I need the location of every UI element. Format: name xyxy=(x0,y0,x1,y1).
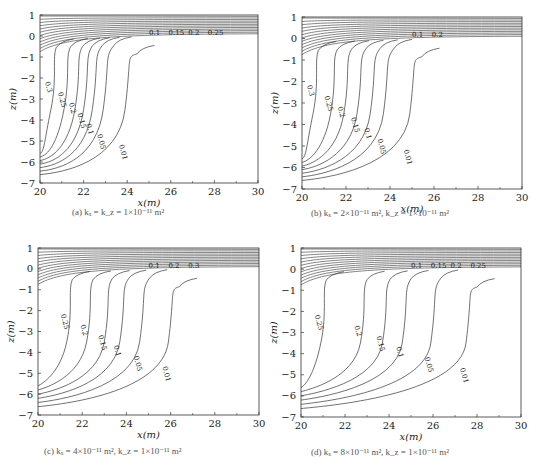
x-tick-label: 24 xyxy=(121,186,134,197)
panel-d: 0.250.20.150.10.050.010.10.150.20.252022… xyxy=(265,230,537,465)
contour-plot-d: 0.250.20.150.10.050.010.10.150.20.252022… xyxy=(265,230,537,445)
y-tick-label: −4 xyxy=(20,115,35,126)
contour-plot-c: 0.250.20.150.10.050.010.10.20.3202224262… xyxy=(0,230,268,445)
contour-label: 0.2 xyxy=(79,324,90,337)
y-tick-label: 1 xyxy=(27,243,33,254)
contour-label: 0.3 xyxy=(43,81,54,94)
surface-contour-label: 0.25 xyxy=(208,29,224,37)
contour-label: 0.1 xyxy=(112,345,123,358)
contour-label: 0.1 xyxy=(362,127,373,140)
surface-contour-label: 0.1 xyxy=(412,31,423,39)
x-tick-label: 26 xyxy=(428,192,441,203)
y-tick-label: 0 xyxy=(29,31,35,42)
y-tick-label: −5 xyxy=(18,368,33,379)
y-tick-label: −7 xyxy=(20,178,35,189)
contour-label: 0.01 xyxy=(402,149,414,166)
surface-contour-label: 0.3 xyxy=(188,262,199,270)
panel-c: 0.250.20.150.10.050.010.10.20.3202224262… xyxy=(0,230,268,465)
contour-label: 0.15 xyxy=(96,334,108,351)
x-tick-label: 26 xyxy=(427,420,440,431)
y-tick-label: 1 xyxy=(291,12,297,23)
y-axis-label: z(m) xyxy=(268,321,279,345)
y-tick-label: −1 xyxy=(18,284,33,295)
caption-b: (b) kₓ = 2×10⁻¹¹ m², k_z = 1×10⁻¹¹ m² xyxy=(311,208,449,218)
y-tick-label: 0 xyxy=(27,263,33,274)
contour-label: 0.01 xyxy=(458,367,470,384)
contour-lines: 0.250.20.150.10.050.010.10.150.20.25 xyxy=(301,249,521,408)
x-tick-label: 20 xyxy=(34,186,47,197)
contour-label: 0.25 xyxy=(313,314,325,331)
x-tick-label: 28 xyxy=(208,186,221,197)
surface-contour-label: 0.2 xyxy=(188,29,199,37)
x-tick-label: 20 xyxy=(295,420,308,431)
x-axis-label: x(m) xyxy=(137,429,160,440)
caption-c: (c) kₓ = 4×10⁻¹¹ m², k_z = 1×10⁻¹¹ m² xyxy=(44,446,181,456)
contour-label: 0.05 xyxy=(423,356,435,373)
y-tick-label: −2 xyxy=(282,76,297,87)
y-tick-label: 0 xyxy=(291,33,297,44)
y-tick-label: −6 xyxy=(282,162,297,173)
y-tick-label: 1 xyxy=(29,10,35,21)
x-tick-label: 30 xyxy=(515,420,528,431)
contour-label: 0.01 xyxy=(117,144,129,161)
caption-d: (d) kₓ = 8×10⁻¹¹ m², k_z = 1×10⁻¹¹ m² xyxy=(311,447,449,457)
x-tick-label: 22 xyxy=(77,186,90,197)
y-tick-label: −2 xyxy=(281,306,296,317)
x-tick-label: 28 xyxy=(208,418,221,429)
x-tick-label: 30 xyxy=(253,418,266,429)
axes-frame xyxy=(301,248,521,417)
x-axis-label: x(m) xyxy=(400,431,423,442)
x-tick-label: 26 xyxy=(164,418,177,429)
contour-label: 0.05 xyxy=(132,355,144,372)
panel-b: 0.30.250.20.150.10.050.010.10.2202224262… xyxy=(265,0,537,228)
x-tick-label: 22 xyxy=(76,418,89,429)
y-tick-label: −5 xyxy=(20,136,35,147)
x-tick-label: 20 xyxy=(296,192,309,203)
x-tick-label: 26 xyxy=(164,186,177,197)
contour-label: 0.05 xyxy=(95,133,107,150)
y-axis-label: z(m) xyxy=(7,88,18,112)
x-tick-label: 30 xyxy=(516,192,529,203)
caption-a: (a) kₓ = k_z = 1×10⁻¹¹ m² xyxy=(72,207,164,217)
contour-label: 0.2 xyxy=(67,102,78,115)
surface-contour-label: 0.1 xyxy=(411,262,422,270)
surface-contour-label: 0.15 xyxy=(169,29,185,37)
axes-frame xyxy=(40,15,258,183)
surface-contour-label: 0.1 xyxy=(149,262,160,270)
contour-lines: 0.30.250.20.150.10.050.010.10.2 xyxy=(302,18,522,180)
y-tick-label: −4 xyxy=(18,347,33,358)
surface-contour-label: 0.1 xyxy=(149,29,160,37)
contour-label: 0.15 xyxy=(374,335,386,352)
y-tick-label: −5 xyxy=(281,369,296,380)
y-tick-label: −6 xyxy=(20,157,35,168)
y-tick-label: −1 xyxy=(282,55,297,66)
x-tick-label: 24 xyxy=(120,418,133,429)
contour-label: 0.2 xyxy=(352,325,363,338)
surface-contour-label: 0.25 xyxy=(470,262,486,270)
x-tick-label: 20 xyxy=(32,418,45,429)
y-axis-label: z(m) xyxy=(5,320,16,344)
x-tick-label: 28 xyxy=(472,192,485,203)
x-tick-label: 22 xyxy=(340,192,353,203)
surface-contour-label: 0.15 xyxy=(431,262,447,270)
y-tick-label: −3 xyxy=(18,326,33,337)
contour-lines: 0.30.250.20.150.10.050.010.10.150.20.25 xyxy=(40,16,258,175)
y-tick-label: −3 xyxy=(281,327,296,338)
y-tick-label: −7 xyxy=(281,412,296,423)
y-tick-label: −6 xyxy=(281,390,296,401)
contour-plot-a: 0.30.250.20.150.10.050.010.10.150.20.252… xyxy=(0,0,268,212)
contour-label: 0.05 xyxy=(375,138,387,155)
y-tick-label: −1 xyxy=(281,285,296,296)
x-tick-label: 22 xyxy=(339,420,352,431)
y-tick-label: −2 xyxy=(20,73,35,84)
contour-label: 0.25 xyxy=(59,313,71,330)
y-tick-label: −7 xyxy=(18,410,33,421)
panel-a: 0.30.250.20.150.10.050.010.10.150.20.252… xyxy=(0,0,268,228)
contour-plot-b: 0.30.250.20.150.10.050.010.10.2202224262… xyxy=(265,0,537,212)
contour-lines: 0.250.20.150.10.050.010.10.20.3 xyxy=(38,249,259,407)
y-tick-label: −4 xyxy=(281,348,296,359)
y-tick-label: −3 xyxy=(282,98,297,109)
surface-contour-label: 0.2 xyxy=(432,31,443,39)
contour-label: 0.2 xyxy=(336,106,347,119)
y-tick-label: −5 xyxy=(282,141,297,152)
